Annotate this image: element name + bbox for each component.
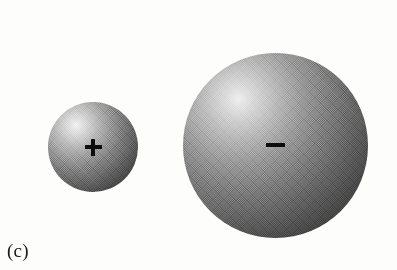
minus-horizontal-bar <box>266 143 285 147</box>
panel-label: (c) <box>7 240 29 262</box>
plus-sign-icon <box>85 139 102 156</box>
figure-panel-c: (c) <box>0 0 397 270</box>
plus-vertical-bar <box>91 139 95 156</box>
minus-sign-icon <box>266 141 285 149</box>
